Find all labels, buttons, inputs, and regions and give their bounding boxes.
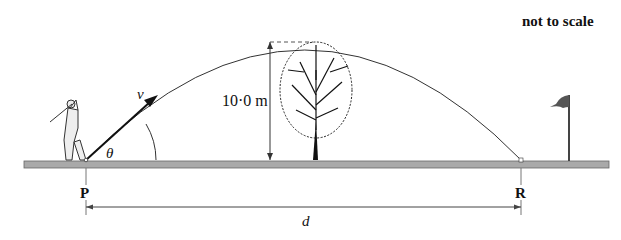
velocity-label: v bbox=[137, 86, 144, 102]
distance-label: d bbox=[302, 213, 310, 229]
flag-icon bbox=[550, 95, 569, 161]
note-label: not to scale bbox=[522, 13, 594, 29]
height-marker bbox=[267, 42, 313, 160]
angle-arc bbox=[146, 124, 156, 160]
point-r-label: R bbox=[515, 185, 526, 201]
golfer-icon bbox=[50, 100, 86, 160]
angle-label: θ bbox=[106, 145, 114, 161]
height-label: 10·0 m bbox=[222, 92, 268, 109]
velocity-arrow-icon bbox=[86, 95, 158, 160]
tree-icon bbox=[280, 42, 352, 160]
point-p-label: P bbox=[80, 185, 89, 201]
distance-arrow bbox=[86, 205, 521, 210]
projectile-diagram: 10·0 m not to scale v θ P R d bbox=[0, 0, 621, 240]
